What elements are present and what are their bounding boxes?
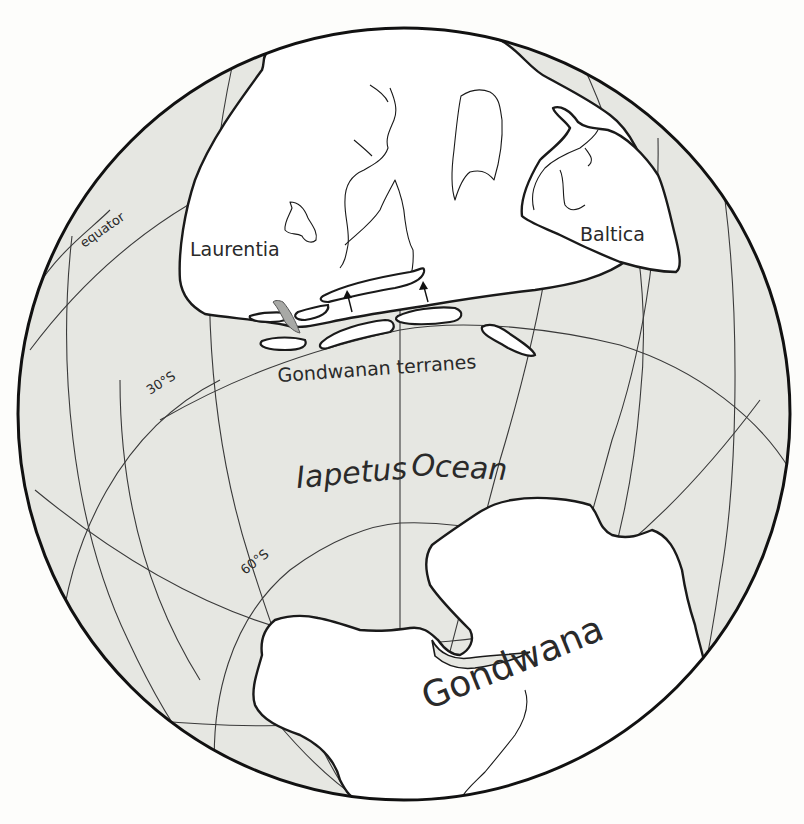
label-baltica: Baltica [580,223,645,245]
paleogeographic-globe-map: equator 30°S 60°S Laurentia Baltica Gond… [0,0,804,824]
label-ocean: Ocean [411,447,509,487]
label-laurentia: Laurentia [190,238,280,260]
